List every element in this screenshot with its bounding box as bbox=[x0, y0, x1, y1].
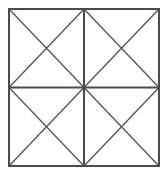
geometric-figure-svg bbox=[0, 0, 167, 173]
geometric-figure-container: Square subdivided into four sub-squares … bbox=[0, 0, 167, 173]
